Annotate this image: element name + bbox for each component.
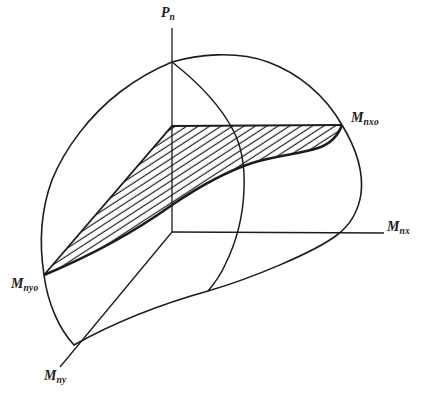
mny-label-main: M [44,368,56,383]
hatched-section-fill [44,125,342,275]
diagram-canvas [0,0,422,396]
mny-label-sub: ny [56,375,66,385]
mnyo-label-main: M [11,276,23,291]
pn-label-sub: n [170,12,176,22]
mnx-label-sub: nx [399,226,410,236]
mnx-axis [172,232,384,233]
pn-axis-label: Pn [161,6,175,20]
mnxo-label-main: M [351,110,363,125]
mnyo-label-sub: nyo [23,283,38,293]
mnx-label-main: M [387,219,399,234]
biaxial-interaction-surface-figure: Pn Mnxo Mnx Mnyo Mny [0,0,422,396]
mnyo-point-label: Mnyo [11,277,39,291]
mnxo-label-sub: nxo [363,117,379,127]
mnx-axis-label: Mnx [387,220,410,234]
pn-label-main: P [161,5,170,20]
mny-axis-label: Mny [44,369,67,383]
failure-surface-outline [41,55,361,345]
mnxo-point-label: Mnxo [351,111,379,125]
